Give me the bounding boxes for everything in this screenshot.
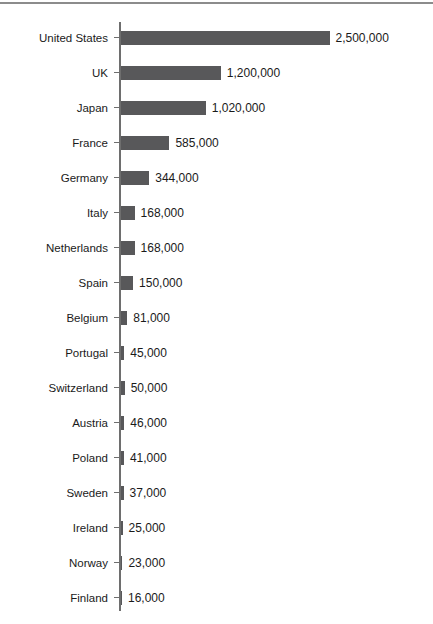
value-label: 344,000 (155, 171, 198, 185)
bar (121, 171, 150, 185)
bar (121, 556, 123, 570)
chart-row: Ireland 25,000 (0, 510, 433, 545)
value-label: 45,000 (130, 346, 167, 360)
chart-row: Norway 23,000 (0, 545, 433, 580)
value-label: 37,000 (130, 486, 167, 500)
category-label: Germany (0, 172, 114, 184)
bar-chart: United States 2,500,000 UK 1,200,000 Jap… (0, 20, 433, 615)
bar (121, 241, 135, 255)
value-label: 81,000 (133, 311, 170, 325)
category-label: Poland (0, 452, 114, 464)
bar (121, 136, 170, 150)
category-label: France (0, 137, 114, 149)
chart-row: Sweden 37,000 (0, 475, 433, 510)
value-label: 1,020,000 (212, 101, 265, 115)
value-label: 1,200,000 (227, 66, 280, 80)
bar (121, 101, 206, 115)
category-label: Finland (0, 592, 114, 604)
value-label: 16,000 (128, 591, 165, 605)
chart-row: Italy 168,000 (0, 195, 433, 230)
category-label: Austria (0, 417, 114, 429)
chart-row: Finland 16,000 (0, 580, 433, 615)
chart-row: Portugal 45,000 (0, 335, 433, 370)
category-label: UK (0, 67, 114, 79)
category-label: Sweden (0, 487, 114, 499)
category-label: Spain (0, 277, 114, 289)
bar (121, 521, 123, 535)
category-label: United States (0, 32, 114, 44)
category-label: Japan (0, 102, 114, 114)
y-axis-line (119, 22, 121, 611)
bar (121, 591, 123, 605)
bar (121, 311, 128, 325)
category-label: Norway (0, 557, 114, 569)
value-label: 25,000 (129, 521, 166, 535)
bar (121, 206, 135, 220)
bar (121, 346, 125, 360)
value-label: 23,000 (128, 556, 165, 570)
bar (121, 486, 124, 500)
chart-rows: United States 2,500,000 UK 1,200,000 Jap… (0, 20, 433, 615)
top-divider (0, 2, 433, 4)
value-label: 50,000 (131, 381, 168, 395)
chart-row: United States 2,500,000 (0, 20, 433, 55)
value-label: 46,000 (130, 416, 167, 430)
bar (121, 381, 125, 395)
value-label: 585,000 (175, 136, 218, 150)
bar (121, 451, 124, 465)
value-label: 168,000 (141, 206, 184, 220)
chart-row: France 585,000 (0, 125, 433, 160)
bar (121, 31, 330, 45)
category-label: Netherlands (0, 242, 114, 254)
bar (121, 416, 125, 430)
chart-row: UK 1,200,000 (0, 55, 433, 90)
chart-row: Poland 41,000 (0, 440, 433, 475)
category-label: Switzerland (0, 382, 114, 394)
value-label: 2,500,000 (336, 31, 389, 45)
category-label: Belgium (0, 312, 114, 324)
value-label: 150,000 (139, 276, 182, 290)
value-label: 41,000 (130, 451, 167, 465)
category-label: Ireland (0, 522, 114, 534)
chart-row: Germany 344,000 (0, 160, 433, 195)
chart-row: Switzerland 50,000 (0, 370, 433, 405)
chart-row: Spain 150,000 (0, 265, 433, 300)
category-label: Italy (0, 207, 114, 219)
bar (121, 276, 134, 290)
chart-row: Netherlands 168,000 (0, 230, 433, 265)
chart-row: Belgium 81,000 (0, 300, 433, 335)
bar (121, 66, 221, 80)
chart-row: Austria 46,000 (0, 405, 433, 440)
category-label: Portugal (0, 347, 114, 359)
value-label: 168,000 (141, 241, 184, 255)
chart-row: Japan 1,020,000 (0, 90, 433, 125)
chart-page: United States 2,500,000 UK 1,200,000 Jap… (0, 0, 433, 624)
